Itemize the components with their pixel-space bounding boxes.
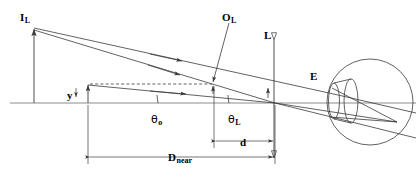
label-image-point-main: I: [20, 11, 24, 23]
diagram-canvas: [0, 0, 416, 178]
label-object-point-main: O: [222, 11, 231, 23]
ray-object-arrowhead: [150, 91, 186, 94]
label-image-point-sub: L: [25, 16, 30, 25]
label-object-height: y: [67, 86, 73, 102]
cornea-front-ellipse: [329, 83, 340, 119]
label-angle-lens-sub: L: [235, 118, 240, 127]
label-image-point: IL: [20, 8, 30, 24]
label-lens-axis: L: [264, 26, 271, 42]
label-angle-lens-main: θ: [228, 113, 235, 126]
angle-arc-theta-L: [228, 95, 229, 103]
label-angle-object-sub: o: [158, 118, 162, 127]
label-eye: E: [310, 67, 317, 83]
ray-image-lower-arrowhead: [148, 65, 180, 75]
label-distance-near: Dnear: [168, 148, 192, 164]
label-distance-d-main: d: [240, 136, 246, 148]
label-distance-d: d: [240, 133, 246, 149]
label-angle-lens: θL: [228, 110, 240, 126]
ray-image-upper-arrowhead: [150, 54, 182, 61]
angle-arc-theta-o: [157, 95, 158, 103]
label-object-height-main: y: [67, 89, 73, 101]
label-distance-near-main: D: [168, 151, 176, 163]
cornea-back-ellipse: [344, 79, 358, 123]
label-eye-main: E: [310, 70, 317, 82]
label-angle-object: θo: [151, 110, 162, 126]
label-object-point-sub: L: [231, 16, 236, 25]
ray-image-upper: [34, 28, 338, 95]
label-object-point: OL: [222, 8, 236, 24]
label-angle-object-main: θ: [151, 113, 158, 126]
label-distance-near-sub: near: [176, 156, 192, 165]
ray-upper-into-eye: [338, 95, 416, 113]
leader-line-object-point: [213, 23, 229, 82]
label-lens-axis-main: L: [264, 29, 271, 41]
ray-diagram-figure: IL OL L E y θo θL d Dnear: [0, 0, 416, 178]
